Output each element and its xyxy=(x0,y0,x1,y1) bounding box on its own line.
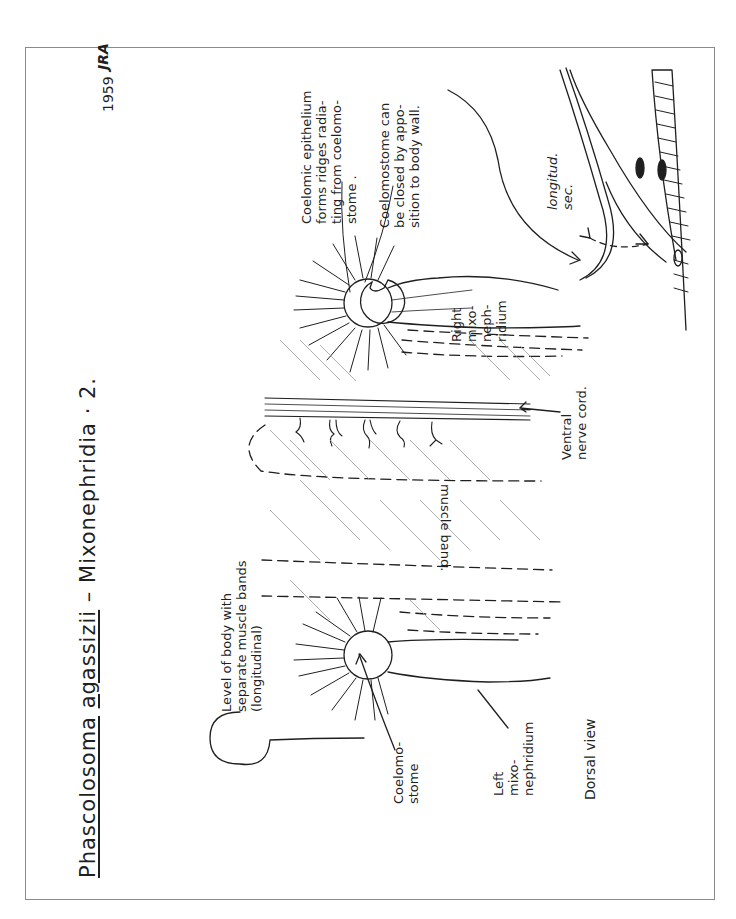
label-line: Right xyxy=(450,300,465,342)
label-line: Level of body with xyxy=(220,560,235,712)
author-initials: JRA xyxy=(95,43,111,70)
label-ventral-nerve-cord: Ventral nerve cord. xyxy=(560,386,590,460)
label-right-mixonephridium: Right mixo- neph- ridium xyxy=(450,300,510,342)
label-line: separate muscle bands xyxy=(235,560,250,712)
anatomical-drawing xyxy=(0,0,736,919)
label-line: nerve cord. xyxy=(575,386,590,460)
date-label: 1959 xyxy=(100,76,116,112)
page-title: Phascolosoma agassizii – Mixonephridia ·… xyxy=(76,377,100,878)
title-subject: Mixonephridia · 2. xyxy=(76,377,100,583)
view-label: Dorsal view xyxy=(582,718,598,800)
label-coelomostome-closed: Coelomostome can be closed by appo- siti… xyxy=(378,103,423,228)
label-line: longitud. xyxy=(546,153,561,210)
title-separator: – xyxy=(76,591,100,603)
label-line: Coelomic epithelium xyxy=(300,91,315,224)
label-line: ting from coelomo- xyxy=(330,91,345,224)
label-line: Left xyxy=(492,722,507,796)
label-line: sition to body wall. xyxy=(408,103,423,228)
label-line: neph- xyxy=(480,300,495,342)
label-coelomostome: Coelomo- stome xyxy=(392,742,422,804)
label-line: forms ridges radia- xyxy=(315,91,330,224)
label-line: nephridium xyxy=(522,722,537,796)
label-muscle-band: muscle band. xyxy=(437,484,452,571)
label-line: Ventral xyxy=(560,386,575,460)
label-line: mixo- xyxy=(465,300,480,342)
label-line: Coelomostome can xyxy=(378,103,393,228)
title-genus: Phascolosoma xyxy=(76,716,100,878)
label-line: (longitudinal) xyxy=(250,560,265,712)
label-longitudinal-section: longitud. sec. xyxy=(546,153,576,210)
title-species: agassizii xyxy=(76,610,100,708)
label-line: stome xyxy=(407,742,422,804)
label-line: mixo- xyxy=(507,722,522,796)
label-level-of-body: Level of body with separate muscle bands… xyxy=(220,560,265,712)
label-line: Coelomo- xyxy=(392,742,407,804)
muscle-band-drawing xyxy=(249,425,562,602)
label-line: ridium xyxy=(495,300,510,342)
body-level-bracket xyxy=(210,712,364,765)
label-left-mixonephridium: Left mixo- nephridium xyxy=(492,722,537,796)
label-coelomic-epithelium: Coelomic epithelium forms ridges radia- … xyxy=(300,91,360,224)
label-line: stome . xyxy=(345,91,360,224)
ventral-nerve-cord-drawing xyxy=(265,398,560,448)
label-line: be closed by appo- xyxy=(393,103,408,228)
label-line: sec. xyxy=(561,153,576,210)
muscle-hatching xyxy=(270,340,550,630)
